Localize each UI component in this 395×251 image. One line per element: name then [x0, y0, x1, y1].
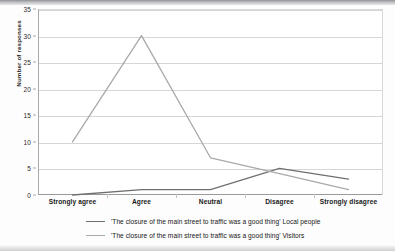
- y-axis-tick-mark: [33, 141, 36, 142]
- legend-item[interactable]: 'The closure of the main street to traff…: [0, 228, 395, 242]
- y-axis-tick-label: 10: [24, 138, 31, 145]
- x-axis-tick-mark: [245, 194, 246, 198]
- series-line-1: [73, 168, 349, 195]
- x-axis-tick-mark: [107, 194, 108, 198]
- legend-label: 'The closure of the main street to traff…: [111, 232, 304, 239]
- y-axis-tick-mark: [33, 62, 36, 63]
- y-axis-ticklabels: 05101520253035: [0, 9, 36, 195]
- y-axis-tick-mark: [33, 35, 36, 36]
- y-axis-tick-label: 25: [24, 59, 31, 66]
- x-axis-tick-label: Neutral: [199, 198, 222, 205]
- legend-swatch-icon: [86, 221, 105, 222]
- y-axis-tick-mark: [33, 9, 36, 10]
- x-axis-tick-mark: [176, 194, 177, 198]
- x-axis-tick-label: Agree: [132, 198, 151, 205]
- legend-swatch-icon: [86, 235, 105, 236]
- y-axis-tick-label: 5: [27, 165, 31, 172]
- x-axis-tick-label: Strongly disagree: [320, 198, 377, 205]
- legend-label: 'The closure of the main street to traff…: [111, 218, 320, 225]
- x-axis-tick-label: Strongly agree: [49, 198, 97, 205]
- legend-item[interactable]: 'The closure of the main street to traff…: [0, 214, 395, 228]
- y-axis-tick-mark: [33, 115, 36, 116]
- x-axis-ticklabels: Strongly agreeAgreeNeutralDisagreeStrong…: [38, 198, 383, 210]
- y-axis-tick-label: 15: [24, 112, 31, 119]
- y-axis-tick-mark: [33, 195, 36, 196]
- y-axis-tick-label: 0: [27, 192, 31, 199]
- y-axis-tick-mark: [33, 88, 36, 89]
- x-axis-tick-mark: [314, 194, 315, 198]
- chart-page: Number of responses 05101520253035 Stron…: [0, 0, 395, 251]
- scan-artifact-bottom: [0, 245, 395, 251]
- series-lines: [38, 9, 383, 195]
- chart-legend: 'The closure of the main street to traff…: [0, 214, 395, 242]
- scan-artifact-top: [0, 0, 395, 5]
- x-axis-tick-label: Disagree: [265, 198, 294, 205]
- y-axis-tick-label: 35: [24, 6, 31, 13]
- y-axis-tick-label: 20: [24, 85, 31, 92]
- y-axis-tick-label: 30: [24, 32, 31, 39]
- series-line-2: [73, 36, 349, 190]
- y-axis-tick-mark: [33, 168, 36, 169]
